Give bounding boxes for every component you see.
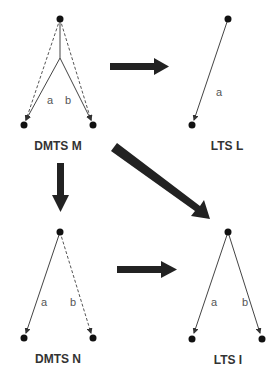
dmts-n-node-b <box>90 335 97 342</box>
dmts-n-initial-node <box>57 229 64 236</box>
dmts-m-must-edge-a <box>26 58 60 120</box>
dmts-m-title: DMTS M <box>34 139 81 153</box>
dmts-m-initial-node <box>57 16 64 23</box>
dmts-n-diagram: a b DMTS N <box>21 229 97 367</box>
lts-i-label-a: a <box>211 296 218 308</box>
lts-l-title: LTS L <box>211 139 243 153</box>
lts-i-title: LTS I <box>214 353 242 367</box>
dmts-n-label-b: b <box>70 296 76 308</box>
dmts-m-node-b <box>90 122 97 129</box>
lts-l-diagram: a LTS L <box>189 16 244 154</box>
lts-l-edge-a <box>194 19 228 120</box>
dmts-m-may-edge-a <box>26 19 60 120</box>
dmts-m-node-a <box>21 122 28 129</box>
dmts-m-diagram: a b DMTS M <box>21 16 97 154</box>
lts-i-node-a <box>189 336 196 343</box>
arrow-m-to-n <box>52 163 69 212</box>
lts-i-label-b: b <box>242 296 248 308</box>
lts-i-edge-a <box>194 232 228 333</box>
dmts-m-label-b: b <box>65 94 71 106</box>
dmts-n-node-a <box>21 335 28 342</box>
lts-l-node-a <box>189 122 196 129</box>
lts-l-label-a: a <box>216 86 223 98</box>
arrow-n-to-i <box>117 261 177 278</box>
lts-i-initial-node <box>225 229 232 236</box>
lts-i-edge-b <box>228 232 260 333</box>
lts-i-diagram: a b LTS I <box>189 229 266 368</box>
arrow-m-to-i <box>111 143 210 219</box>
arrow-m-to-l <box>110 58 169 75</box>
dmts-n-title: DMTS N <box>35 352 81 366</box>
lts-i-node-b <box>259 336 266 343</box>
dmts-n-label-a: a <box>41 296 48 308</box>
dmts-n-must-edge-a <box>26 232 60 333</box>
dmts-m-label-a: a <box>47 94 54 106</box>
diagram-canvas: a b DMTS M a LTS L a b DMTS N a b LTS I <box>0 0 278 377</box>
dmts-n-may-edge-b <box>60 232 91 333</box>
dmts-m-must-edge-b <box>60 58 91 120</box>
lts-l-initial-node <box>225 16 232 23</box>
